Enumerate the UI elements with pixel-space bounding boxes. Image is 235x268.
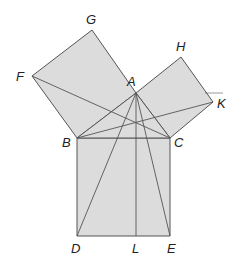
point-label-a: A — [126, 74, 136, 89]
point-label-e: E — [167, 241, 176, 256]
point-label-l: L — [132, 241, 139, 256]
point-label-b: B — [62, 135, 71, 150]
squares-group — [32, 30, 213, 236]
point-label-g: G — [86, 12, 96, 27]
point-label-d: D — [71, 241, 80, 256]
pythagorean-diagram: GFAHKBCDLE — [0, 0, 235, 268]
point-label-h: H — [176, 39, 186, 54]
square-BCED — [77, 138, 170, 236]
point-label-f: F — [16, 69, 25, 84]
point-label-c: C — [174, 135, 184, 150]
point-label-k: K — [217, 96, 227, 111]
